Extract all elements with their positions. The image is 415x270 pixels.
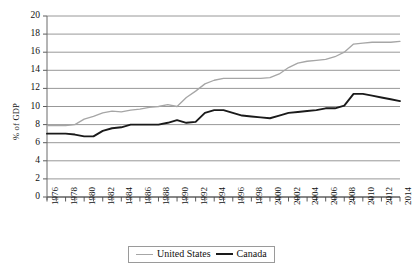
chart-legend: United States Canada	[128, 246, 275, 263]
y-axis-title: % of GDP	[11, 103, 21, 140]
y-axis-tick-label: 10	[22, 102, 40, 112]
x-axis-tick-label: 1978	[70, 187, 79, 205]
x-axis-tick-label: 2006	[330, 187, 339, 205]
x-axis-tick-label: 2004	[311, 187, 320, 205]
legend-label-canada: Canada	[237, 249, 267, 259]
series-line-canada	[47, 94, 400, 137]
legend-item-canada[interactable]: Canada	[216, 249, 267, 259]
series-line-united-states	[47, 41, 400, 125]
x-axis-tick-label: 2008	[348, 187, 357, 205]
y-axis-tick-label: 0	[22, 192, 40, 202]
x-axis-tick-label: 1980	[88, 187, 97, 205]
legend-label-united-states: United States	[157, 249, 211, 259]
x-axis-tick-label: 2012	[385, 187, 394, 205]
y-axis-tick-label: 2	[22, 174, 40, 184]
gridlines-group	[47, 16, 400, 197]
y-axis-tick-label: 20	[22, 11, 40, 21]
x-axis-tick-label: 1988	[162, 187, 171, 205]
y-axis-tick-label: 4	[22, 156, 40, 166]
x-axis-tick-label: 1996	[237, 187, 246, 205]
y-axis-tick-label: 8	[22, 120, 40, 130]
y-axis-tick-label: 16	[22, 47, 40, 57]
x-axis-tick-label: 1984	[125, 187, 134, 205]
x-axis-tick-label: 1986	[144, 187, 153, 205]
legend-line-swatch-canada	[216, 253, 233, 255]
x-axis-tick-label: 2000	[274, 187, 283, 205]
data-series-group	[47, 41, 400, 136]
x-axis-tick-label: 1994	[218, 187, 227, 205]
x-axis-tick-label: 1992	[200, 187, 209, 205]
y-axis-tick-label: 18	[22, 29, 40, 39]
y-axis-tick-label: 12	[22, 83, 40, 93]
x-axis-tick-label: 2010	[367, 187, 376, 205]
y-axis-tick-label: 14	[22, 65, 40, 75]
x-axis-tick-label: 2014	[404, 187, 413, 205]
chart-container: 02468101214161820 1976197819801982198419…	[0, 0, 415, 270]
x-axis-tick-label: 1982	[107, 187, 116, 205]
x-axis-tick-label: 1990	[181, 187, 190, 205]
legend-item-united-states[interactable]: United States	[136, 249, 211, 259]
y-axis-tick-label: 6	[22, 138, 40, 148]
legend-line-swatch-us	[136, 254, 153, 255]
x-axis-ticks-group	[43, 16, 400, 202]
x-axis-tick-label: 1976	[51, 187, 60, 205]
x-axis-tick-label: 2002	[293, 187, 302, 205]
line-chart-plot	[0, 0, 415, 270]
x-axis-tick-label: 1998	[255, 187, 264, 205]
